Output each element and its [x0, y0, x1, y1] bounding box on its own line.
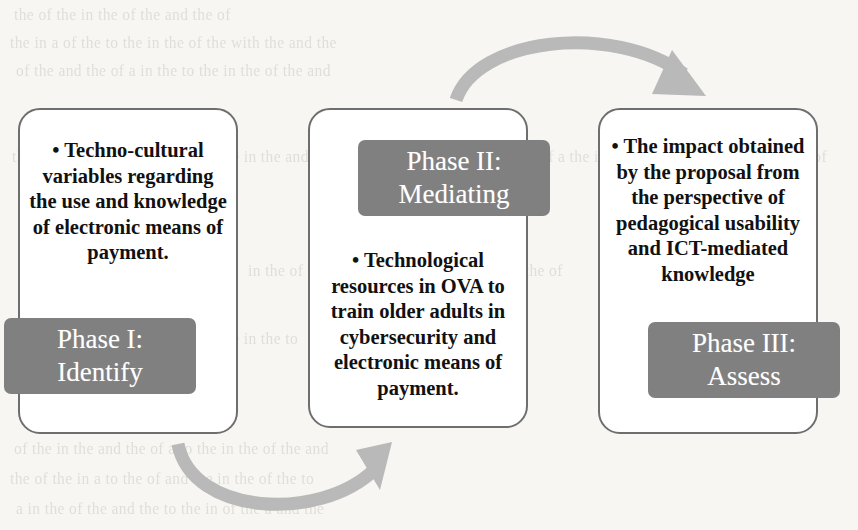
phase-2-body-text: • Technological resources in OVA to trai…: [318, 248, 518, 401]
phase-1-label-line1: Phase I:: [57, 323, 143, 356]
diagram-canvas: the of the in the of the and the of the …: [0, 0, 858, 530]
phase-2-label-bar[interactable]: Phase II: Mediating: [358, 140, 550, 216]
ghost-line: a in the of the and the to the in of the…: [16, 500, 840, 518]
arrow-bottom: [178, 442, 392, 504]
phase-2-label-line2: Mediating: [399, 178, 510, 211]
arrow-top: [456, 43, 706, 100]
phase-3-label-bar[interactable]: Phase III: Assess: [648, 322, 840, 398]
ghost-line: of the in the and the of a to the in the…: [14, 440, 844, 458]
phase-3-label-line1: Phase III:: [692, 327, 796, 360]
ghost-line: the of the in the of the and the of: [14, 6, 844, 24]
phase-1-body: • Techno-cultural variables regarding th…: [28, 138, 228, 266]
phase-1-label-bar[interactable]: Phase I: Identify: [4, 318, 196, 394]
phase-3-body: • The impact obtained by the proposal fr…: [608, 134, 808, 287]
phase-2-label-line1: Phase II:: [406, 145, 501, 178]
phase-1-body-text: • Techno-cultural variables regarding th…: [28, 138, 228, 266]
phase-3-body-text: • The impact obtained by the proposal fr…: [608, 134, 808, 287]
phase-3-label-line2: Assess: [707, 360, 781, 393]
ghost-line: the of the in a to the of and the in the…: [10, 470, 846, 488]
ghost-line: the in a of the to the in the of the wit…: [10, 34, 848, 52]
phase-1-label-line2: Identify: [57, 356, 142, 389]
ghost-line: of the and the of a in the to the in the…: [16, 62, 842, 80]
phase-2-body: • Technological resources in OVA to trai…: [318, 248, 518, 401]
